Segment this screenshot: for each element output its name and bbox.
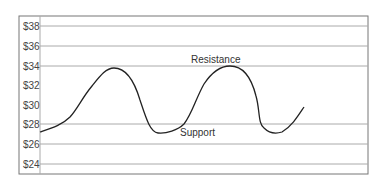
y-tick-38: $38 [23,21,40,32]
y-tick-26: $26 [23,139,40,150]
price-chart: $38 $36 $34 $32 $30 $28 $26 $24 Resistan… [0,0,383,183]
y-tick-28: $28 [23,119,40,130]
y-tick-24: $24 [23,159,40,170]
resistance-label: Resistance [191,54,241,65]
chart-frame [19,16,368,174]
support-label: Support [180,127,215,138]
y-tick-34: $34 [23,61,40,72]
y-tick-36: $36 [23,41,40,52]
y-tick-30: $30 [23,100,40,111]
y-tick-32: $32 [23,80,40,91]
